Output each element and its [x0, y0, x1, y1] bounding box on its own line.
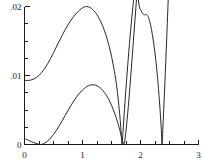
y-axis-ticks: [25, 7, 30, 145]
plot-canvas: 0123 0.01.02: [0, 0, 203, 161]
y-tick-label-2: .02: [10, 2, 21, 12]
axes-group: [25, 7, 199, 145]
x-tick-label-3: 3: [196, 150, 201, 160]
x-axis-ticks: [25, 140, 199, 145]
curve-upper-curve: [25, 0, 136, 145]
x-axis-tick-labels: 0123: [22, 150, 201, 160]
chart-figure: 0123 0.01.02: [0, 0, 203, 161]
x-tick-label-2: 2: [138, 150, 143, 160]
y-axis-tick-labels: 0.01.02: [10, 2, 22, 150]
x-tick-label-1: 1: [80, 150, 85, 160]
curve-upper-curve-second-branch: [136, 0, 170, 145]
data-curves: [25, 0, 170, 145]
y-tick-label-1: .01: [10, 71, 21, 81]
y-tick-label-0: 0: [17, 140, 22, 150]
x-tick-label-0: 0: [22, 150, 27, 160]
